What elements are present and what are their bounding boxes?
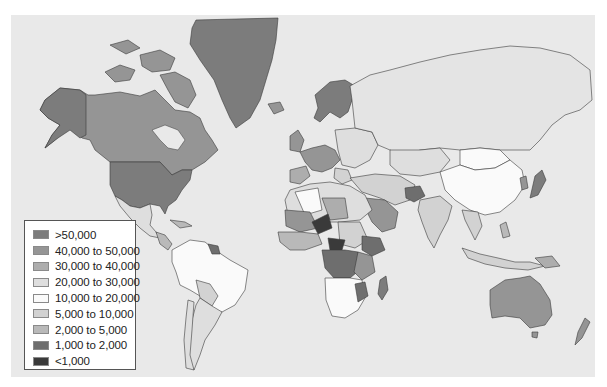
legend-label: 20,000 to 30,000: [55, 276, 140, 288]
legend-swatch: [33, 278, 49, 287]
region-uk: [290, 130, 304, 152]
region-tasmania: [532, 332, 538, 338]
legend-item: 2,000 to 5,000: [33, 322, 135, 338]
legend-item: 20,000 to 30,000: [33, 274, 135, 290]
legend-label: <1,000: [55, 355, 90, 367]
legend-item: 40,000 to 50,000: [33, 243, 135, 259]
region-eastern-europe: [335, 128, 378, 168]
region-india: [418, 196, 452, 248]
legend-item: 10,000 to 20,000: [33, 290, 135, 306]
legend-label: >50,000: [55, 229, 96, 241]
region-new-zealand: [575, 318, 590, 345]
legend-item: 5,000 to 10,000: [33, 306, 135, 322]
legend-label: 40,000 to 50,000: [55, 245, 140, 257]
region-madagascar: [378, 276, 388, 300]
region-alaska: [40, 88, 86, 148]
legend-swatch: [33, 294, 49, 303]
legend-label: 2,000 to 5,000: [55, 324, 127, 336]
legend-swatch: [33, 357, 49, 366]
region-central-america: [156, 232, 172, 250]
legend-label: 10,000 to 20,000: [55, 292, 140, 304]
legend-swatch: [33, 262, 49, 271]
legend-item: <1,000: [33, 353, 135, 369]
legend-swatch: [33, 325, 49, 334]
region-indonesia: [462, 248, 545, 270]
region-southeast-asia: [462, 210, 482, 240]
legend-swatch: [33, 309, 49, 318]
legend-swatch: [33, 230, 49, 239]
region-japan: [530, 170, 546, 198]
region-east-africa: [354, 252, 375, 280]
region-chad-car: [328, 238, 345, 250]
map-legend: >50,000 40,000 to 50,000 30,000 to 40,00…: [24, 220, 136, 370]
legend-item: 30,000 to 40,000: [33, 259, 135, 275]
legend-swatch: [33, 341, 49, 350]
legend-item: >50,000: [33, 227, 135, 243]
legend-label: 30,000 to 40,000: [55, 260, 140, 272]
region-iberia: [290, 166, 310, 184]
region-scandinavia: [314, 80, 355, 122]
legend-label: 5,000 to 10,000: [55, 308, 133, 320]
legend-label: 1,000 to 2,000: [55, 339, 127, 351]
region-balkans: [334, 168, 352, 184]
region-greenland: [190, 18, 278, 128]
region-philippines: [500, 222, 510, 238]
region-australia: [490, 276, 552, 328]
region-iceland: [268, 102, 284, 114]
legend-item: 1,000 to 2,000: [33, 338, 135, 354]
legend-swatch: [33, 246, 49, 255]
region-west-africa: [278, 232, 322, 250]
region-russia: [350, 46, 592, 155]
region-ethiopia: [362, 236, 385, 256]
region-caribbean: [170, 220, 192, 228]
